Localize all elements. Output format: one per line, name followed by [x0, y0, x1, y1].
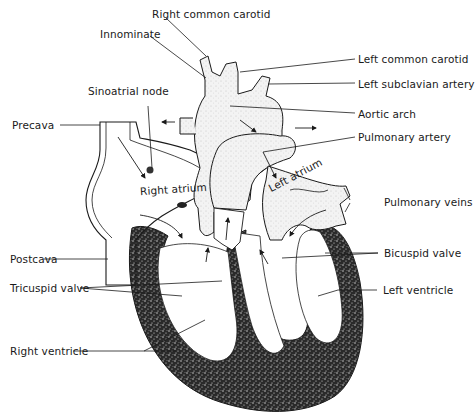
- label-right-common-carotid: Right common carotid: [152, 8, 270, 20]
- label-bicuspid-valve: Bicuspid valve: [384, 247, 461, 259]
- label-left-subclavian-artery: Left subclavian artery: [358, 78, 475, 90]
- label-aortic-arch: Aortic arch: [358, 108, 416, 120]
- label-precava: Precava: [12, 119, 54, 131]
- label-pulmonary-artery: Pulmonary artery: [358, 131, 451, 143]
- label-postcava: Postcava: [10, 253, 58, 265]
- label-left-ventricle: Left ventricle: [383, 284, 453, 296]
- label-innominate: Innominate: [100, 28, 161, 40]
- label-tricuspid-valve: Tricuspid valve: [10, 282, 89, 294]
- label-right-ventricle: Right ventricle: [10, 345, 88, 357]
- label-pulmonary-veins: Pulmonary veins: [384, 196, 473, 208]
- label-left-common-carotid: Left common carotid: [358, 53, 468, 65]
- label-sinoatrial-node: Sinoatrial node: [88, 85, 169, 97]
